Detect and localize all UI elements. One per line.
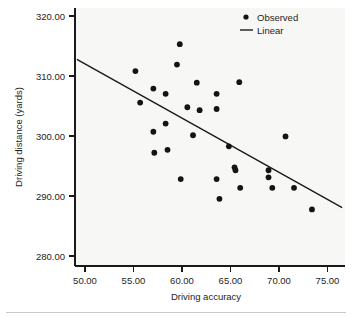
x-tick-label: 70.00: [267, 275, 291, 286]
data-point: [150, 86, 156, 92]
data-point: [133, 68, 139, 74]
legend-observed-marker-icon: [243, 14, 248, 19]
y-tick-label: 300.00: [36, 131, 65, 142]
y-tick-label: 290.00: [36, 191, 65, 202]
data-point: [137, 100, 143, 106]
data-point: [163, 121, 169, 127]
data-point: [190, 132, 196, 138]
data-point: [214, 91, 220, 97]
data-point: [178, 176, 184, 182]
data-point: [194, 80, 200, 86]
legend-linear-label: Linear: [257, 25, 283, 36]
data-point: [237, 185, 243, 191]
scatter-plot: 320.00 310.00 300.00 290.00 280.00 50.00…: [0, 0, 352, 318]
data-point: [217, 196, 223, 202]
data-point: [163, 91, 169, 97]
data-point: [236, 79, 242, 85]
y-axis-title: Driving distance (yards): [13, 87, 24, 187]
data-point: [150, 129, 156, 135]
legend-observed-label: Observed: [257, 12, 298, 23]
x-tick-label: 65.00: [219, 275, 243, 286]
y-tick-label: 280.00: [36, 251, 65, 262]
x-axis-title: Driving accuracy: [171, 291, 241, 302]
plot-area-background: [75, 8, 345, 266]
data-point: [151, 150, 157, 156]
x-tick-label: 55.00: [122, 275, 146, 286]
chart-figure: 320.00 310.00 300.00 290.00 280.00 50.00…: [0, 0, 352, 318]
data-point: [266, 167, 272, 173]
data-point: [165, 147, 171, 153]
data-point: [309, 206, 315, 212]
data-point: [184, 104, 190, 110]
data-point: [174, 62, 180, 68]
y-tick-label: 310.00: [36, 71, 65, 82]
data-point: [291, 185, 297, 191]
data-point: [226, 143, 232, 149]
data-point: [177, 41, 183, 47]
data-point: [214, 176, 220, 182]
data-point: [214, 106, 220, 112]
data-point: [197, 107, 203, 113]
x-tick-label: 60.00: [170, 275, 194, 286]
data-point: [266, 174, 272, 180]
x-tick-label: 50.00: [73, 275, 97, 286]
data-point: [269, 185, 275, 191]
y-tick-label: 320.00: [36, 11, 65, 22]
x-tick-label: 75.00: [316, 275, 340, 286]
data-point: [233, 167, 239, 173]
data-point: [283, 134, 289, 140]
